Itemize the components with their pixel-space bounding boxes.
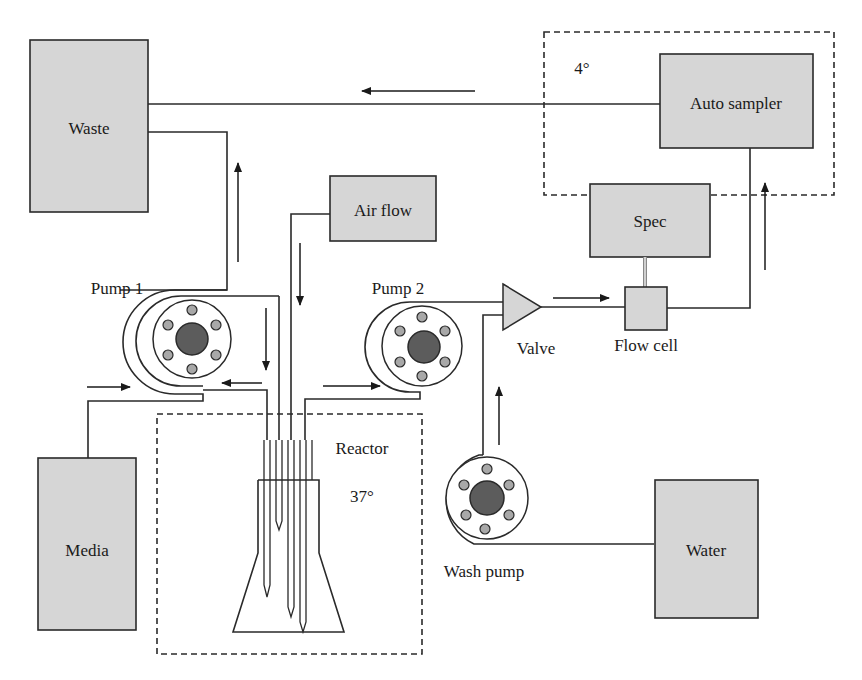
pump1-label: Pump 1 xyxy=(91,279,143,298)
pump-1: Pump 1 xyxy=(88,279,279,458)
wash-pump: Wash pump xyxy=(444,455,654,581)
bioreactor-schematic: Waste 4° Auto sampler Spec Flow cell Val… xyxy=(0,0,862,680)
washpump-to-valve-line xyxy=(483,315,503,455)
waste-label: Waste xyxy=(68,119,109,138)
media-label: Media xyxy=(65,541,109,560)
pump2-label: Pump 2 xyxy=(372,279,424,298)
valve-label: Valve xyxy=(517,339,556,358)
waste-container: Waste xyxy=(30,40,148,212)
flow-cell-label: Flow cell xyxy=(614,336,678,355)
reactor-flask xyxy=(233,440,344,632)
spectrophotometer: Spec xyxy=(590,184,710,257)
pump-2: Pump 2 xyxy=(305,279,462,440)
air-flow-label: Air flow xyxy=(354,201,413,220)
airflow-to-reactor-line xyxy=(291,214,330,440)
auto-sampler: Auto sampler xyxy=(660,54,813,148)
cold-enclosure-temp: 4° xyxy=(574,59,589,78)
spec-label: Spec xyxy=(633,212,667,231)
reactor-temp: 37° xyxy=(350,487,374,506)
reactor-to-pump1-line xyxy=(203,390,267,440)
reactor-label: Reactor xyxy=(336,439,389,458)
water-container: Water xyxy=(655,480,758,618)
wash-pump-label: Wash pump xyxy=(444,562,524,581)
auto-sampler-label: Auto sampler xyxy=(690,94,782,113)
air-flow-source: Air flow xyxy=(330,176,436,241)
media-container: Media xyxy=(38,458,136,630)
water-label: Water xyxy=(686,541,726,560)
flow-cell: Flow cell xyxy=(614,287,678,355)
valve: Valve xyxy=(503,284,555,358)
